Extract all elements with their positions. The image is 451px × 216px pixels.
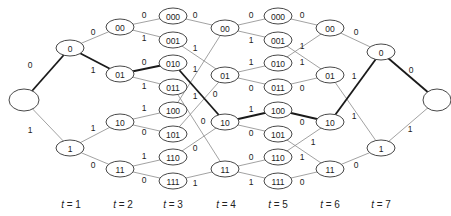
state-node-t1_1: 1 <box>56 140 84 156</box>
edge-label: 0 <box>249 10 254 20</box>
node-label: 1 <box>68 144 73 154</box>
state-node-t4_11: 11 <box>211 161 239 177</box>
state-node-t5_110: 110 <box>264 149 292 165</box>
edge-label: 1 <box>300 57 305 67</box>
node-label: 11 <box>221 165 230 175</box>
edge-label: 0 <box>142 57 147 67</box>
node-label: 0 <box>379 48 384 58</box>
edge-label: 1 <box>352 111 357 121</box>
edge-label: 0 <box>354 27 359 37</box>
state-node-t6_01: 01 <box>316 67 344 83</box>
time-step-label: t = 4 <box>216 199 236 210</box>
node-label: 01 <box>220 71 230 81</box>
edge-label: 1 <box>408 124 413 134</box>
time-step-label: t = 3 <box>163 199 183 210</box>
edge-label: 0 <box>142 127 147 137</box>
edge-label: 0 <box>249 83 254 93</box>
time-step-label: t = 5 <box>268 199 288 210</box>
state-node-t5_101: 101 <box>264 126 292 142</box>
nodes-layer: 0100011011000001010011100101110111000110… <box>9 8 451 189</box>
node-label: 111 <box>167 177 180 187</box>
edge-label: 1 <box>28 125 33 135</box>
state-node-t6_11: 11 <box>316 161 344 177</box>
node-label: 010 <box>166 59 180 69</box>
edge-label: 0 <box>300 117 305 127</box>
node-label: 110 <box>166 153 180 163</box>
node-label: 100 <box>166 106 180 116</box>
node-label: 001 <box>271 36 285 46</box>
edge-label: 0 <box>249 128 254 138</box>
node-label: 00 <box>115 23 125 33</box>
edge-label: 1 <box>249 35 254 45</box>
edge-label: 0 <box>91 160 96 170</box>
state-node-t5_001: 001 <box>264 32 292 48</box>
node-label: 101 <box>271 130 285 140</box>
edge-label: 0 <box>354 160 359 170</box>
state-node-t4_10: 10 <box>211 114 239 130</box>
edge-label: 1 <box>142 103 147 113</box>
node-label: 10 <box>325 118 335 128</box>
node-label: 10 <box>115 118 125 128</box>
edge-label: 0 <box>142 175 147 185</box>
state-node-t3_011: 011 <box>159 79 187 95</box>
state-node-t3_111: 111 <box>159 173 187 189</box>
edge-label: 0 <box>193 143 198 153</box>
state-node-t5_010: 010 <box>264 55 292 71</box>
edge-label: 0 <box>142 10 147 20</box>
state-node-end <box>423 89 451 111</box>
state-node-t3_110: 110 <box>159 149 187 165</box>
edge-label: 1 <box>142 151 147 161</box>
edge-label: 1 <box>193 91 198 101</box>
time-step-label: t = 6 <box>320 199 340 210</box>
edge-label: 0 <box>91 27 96 37</box>
edge-label: 0 <box>201 116 206 126</box>
node-label: 000 <box>271 12 285 22</box>
state-node-t6_10: 10 <box>316 114 344 130</box>
edge-label: 1 <box>352 71 357 81</box>
node-label: 110 <box>271 153 285 163</box>
node-label: 000 <box>166 12 180 22</box>
node-label: 100 <box>271 106 285 116</box>
node-label: 101 <box>166 130 180 140</box>
node-label: 00 <box>325 24 335 34</box>
state-node-t3_010: 010 <box>159 55 187 71</box>
node-ellipse <box>9 89 39 111</box>
state-node-t3_000: 000 <box>159 8 187 24</box>
edge-label: 0 <box>300 177 305 187</box>
state-node-t5_111: 111 <box>264 173 292 189</box>
state-node-t1_0: 0 <box>56 40 84 56</box>
node-label: 111 <box>272 177 285 187</box>
edge-label: 1 <box>300 152 305 162</box>
edge-label: 1 <box>193 43 198 53</box>
edge-label: 1 <box>249 104 254 114</box>
node-ellipse <box>423 89 451 111</box>
node-label: 0 <box>68 44 73 54</box>
edge-label: 1 <box>300 41 305 51</box>
node-label: 011 <box>166 83 180 93</box>
state-node-t2_00: 00 <box>106 19 134 35</box>
state-node-t7_0: 0 <box>367 44 395 60</box>
state-node-t4_00: 00 <box>211 20 239 36</box>
node-label: 01 <box>115 70 125 80</box>
edge-label: 1 <box>91 65 96 75</box>
edge-label: 0 <box>28 60 33 70</box>
edge-label: 1 <box>193 178 198 188</box>
edge-label: 0 <box>193 10 198 20</box>
state-node-t7_1: 1 <box>367 140 395 156</box>
state-node-t5_100: 100 <box>264 102 292 118</box>
edge-label: 1 <box>249 57 254 67</box>
state-node-t2_11: 11 <box>106 161 134 177</box>
edge-label: 1 <box>193 64 198 74</box>
state-node-t6_00: 00 <box>316 20 344 36</box>
edge-label: 1 <box>91 123 96 133</box>
edges-layer <box>24 16 437 181</box>
edge-label: 1 <box>142 81 147 91</box>
time-step-label: t = 1 <box>61 199 81 210</box>
time-axis-labels: t = 1t = 2t = 3t = 4t = 5t = 6t = 7 <box>61 199 391 210</box>
state-node-t5_000: 000 <box>264 8 292 24</box>
trellis-diagram: 0101100101101001101001011010010011011001… <box>0 0 451 216</box>
node-label: 001 <box>166 36 180 46</box>
state-node-start <box>9 89 39 111</box>
edge-label: 1 <box>311 137 316 147</box>
edge-label: 0 <box>300 83 305 93</box>
